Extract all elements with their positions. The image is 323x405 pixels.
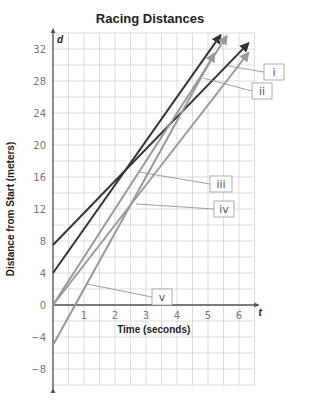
series-line-e — [53, 54, 214, 345]
annotation-label-i: i — [272, 66, 275, 79]
x-axis-variable: t — [259, 307, 263, 318]
y-tick-label: 16 — [33, 172, 46, 183]
x-tick-label: 3 — [143, 310, 149, 321]
y-tick-label: 8 — [40, 236, 46, 247]
annotation-label-iii: iii — [216, 178, 225, 191]
annotation-label-v: v — [159, 291, 166, 304]
annotation-label-ii: ii — [259, 85, 265, 98]
y-tick-label: −8 — [31, 364, 46, 375]
y-tick-label: 32 — [33, 44, 46, 55]
y-tick-label: −4 — [31, 332, 46, 343]
x-tick-label: 1 — [81, 310, 87, 321]
y-tick-label: 28 — [33, 76, 46, 87]
y-tick-label: 0 — [40, 300, 46, 311]
series-line-b — [53, 35, 220, 273]
y-axis-label: Distance from Start (meters) — [5, 142, 16, 276]
y-axis-variable: d — [57, 34, 64, 45]
annotation-leader-line — [136, 204, 214, 209]
y-tick-label: 4 — [40, 268, 46, 279]
x-tick-label: 2 — [112, 310, 118, 321]
annotation-label-iv: iv — [219, 203, 229, 216]
racing-distances-chart: Racing Distancesdt123456−8−4048121620242… — [0, 0, 323, 405]
annotation-leader-line — [87, 284, 152, 297]
x-axis-label: Time (seconds) — [117, 324, 190, 335]
x-tick-label: 5 — [205, 310, 211, 321]
x-tick-label: 6 — [236, 310, 242, 321]
y-tick-label: 20 — [33, 140, 46, 151]
x-tick-label: 4 — [174, 310, 180, 321]
chart-title: Racing Distances — [96, 11, 204, 26]
y-tick-label: 12 — [33, 204, 46, 215]
annotation-leader-line — [139, 172, 210, 184]
y-tick-label: 24 — [33, 108, 46, 119]
